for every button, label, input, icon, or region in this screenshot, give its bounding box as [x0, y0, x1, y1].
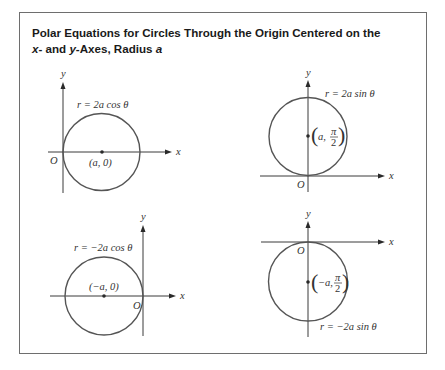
center-label-two: 2 — [331, 137, 336, 148]
center-label-a: a, — [318, 131, 326, 142]
x-arrow-icon — [378, 240, 385, 245]
origin-label: O — [297, 245, 305, 256]
panel-sin-negative: x y O r = −2a sin θ ( −a, π 2 ) — [261, 208, 394, 337]
y-label: y — [305, 67, 311, 78]
panel-cos-negative: x y O (−a, 0) r = −2a cos θ — [50, 211, 185, 336]
y-label: y — [140, 211, 146, 222]
right-paren: ) — [338, 122, 345, 147]
x-arrow-icon — [165, 150, 172, 155]
x-label: x — [388, 236, 394, 247]
y-label: y — [305, 208, 311, 219]
panel-cos-positive: x y O (a, 0) r = 2a cos θ — [48, 68, 181, 193]
center-dot — [306, 280, 310, 284]
y-label: y — [60, 68, 66, 79]
panel-sin-positive: x y O r = 2a sin θ ( a, π 2 ) — [260, 67, 394, 192]
center-dot — [306, 134, 310, 138]
center-label: ( −a, π 2 ) — [311, 269, 349, 294]
center-label-a: −a, — [318, 277, 333, 288]
center-label: (−a, 0) — [89, 281, 119, 293]
x-label: x — [388, 170, 394, 181]
center-dot — [102, 294, 106, 298]
polar-circles-diagram: x y O (a, 0) r = 2a cos θ x y O r = 2a s… — [0, 0, 445, 370]
x-label: x — [179, 290, 185, 301]
equation-label: r = 2a sin θ — [325, 88, 375, 99]
center-label: (a, 0) — [89, 157, 112, 169]
center-label: ( a, π 2 ) — [311, 122, 345, 148]
equation-label: r = 2a cos θ — [77, 99, 128, 110]
origin-label: O — [50, 155, 58, 166]
y-arrow-icon — [306, 80, 311, 87]
y-arrow-icon — [306, 221, 311, 228]
x-arrow-icon — [169, 294, 176, 299]
right-paren: ) — [342, 269, 349, 294]
center-dot — [100, 150, 104, 154]
x-arrow-icon — [378, 174, 385, 179]
y-arrow-icon — [61, 82, 66, 89]
equation-label: r = −2a sin θ — [320, 321, 377, 332]
center-label-two: 2 — [335, 283, 340, 294]
origin-label: O — [297, 179, 305, 190]
equation-label: r = −2a cos θ — [74, 242, 132, 253]
center-label-pi: π — [331, 126, 337, 137]
y-arrow-icon — [141, 225, 146, 232]
center-label-pi: π — [335, 272, 341, 283]
origin-label: O — [133, 300, 141, 311]
x-label: x — [175, 146, 181, 157]
